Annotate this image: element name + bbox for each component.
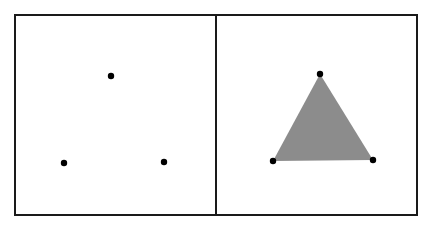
left-panel-points (61, 73, 167, 166)
vertex-point (61, 160, 67, 166)
diagram-canvas (0, 0, 433, 226)
triangle-shape (273, 74, 373, 161)
vertex-point (161, 159, 167, 165)
vertex-point (370, 157, 376, 163)
vertex-point (108, 73, 114, 79)
vertex-point (317, 71, 323, 77)
right-panel-triangle (270, 71, 376, 164)
vertex-point (270, 158, 276, 164)
